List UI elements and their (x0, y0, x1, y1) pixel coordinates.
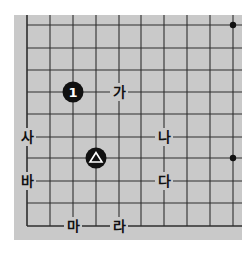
star-point-icon (230, 22, 236, 28)
label-ra: 라 (113, 218, 126, 234)
label-ba: 바 (21, 173, 34, 189)
label-na: 나 (158, 129, 171, 145)
stone-triangle-icon (86, 148, 107, 169)
star-point-icon (230, 155, 236, 161)
board-background (14, 15, 242, 240)
label-da: 다 (158, 173, 171, 189)
stone-1-icon: 1 (63, 82, 84, 103)
svg-text:1: 1 (68, 85, 77, 100)
label-sa: 사 (21, 129, 34, 145)
go-board-diagram: 가나다라마바사 1 (0, 0, 252, 259)
label-ga: 가 (113, 84, 126, 100)
label-ma: 마 (67, 218, 80, 234)
